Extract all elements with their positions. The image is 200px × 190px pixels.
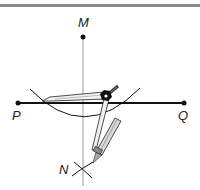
point-p [16,101,21,106]
construction-diagram [0,0,200,190]
label-q: Q [178,109,188,122]
label-n: N [59,163,68,176]
point-m [81,35,86,40]
compass-icon [42,86,121,163]
label-m: M [78,16,89,29]
compass-needle-leg [42,92,106,101]
point-q [182,101,187,106]
label-p: P [12,109,21,122]
